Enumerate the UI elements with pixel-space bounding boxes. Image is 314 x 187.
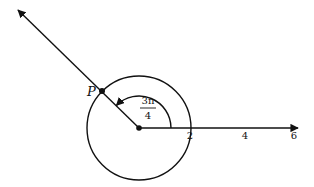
tick-label-2: 2: [187, 130, 193, 141]
tick-label-4: 4: [242, 130, 248, 141]
tick-label-6: 6: [291, 130, 297, 141]
angle-numerator: 3π: [142, 95, 155, 106]
terminal-ray: [18, 10, 139, 128]
point-p: [99, 88, 105, 94]
unit-circle-diagram: P 3π 4 2 4 6: [0, 0, 314, 187]
angle-denominator: 4: [145, 110, 151, 121]
origin-point: [136, 125, 142, 131]
point-p-label: P: [86, 84, 96, 99]
